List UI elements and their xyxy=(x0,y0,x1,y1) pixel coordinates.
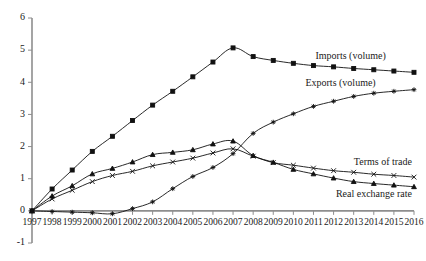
data-point-marker xyxy=(151,103,155,107)
x-axis-tick-label: 2003 xyxy=(143,217,162,227)
line-chart: -10123456 199719981999200020012002200320… xyxy=(0,0,426,261)
data-point-marker xyxy=(251,131,256,136)
series-line xyxy=(32,140,414,210)
chart-container: -10123456 199719981999200020012002200320… xyxy=(0,0,426,261)
x-axis-tick-label: 2004 xyxy=(163,217,182,227)
series-label: Exports (volume) xyxy=(305,77,375,89)
data-point-marker xyxy=(291,111,296,116)
data-point-marker xyxy=(412,70,416,74)
x-axis-tick-label: 2002 xyxy=(123,217,142,227)
x-axis-tick-label: 2001 xyxy=(103,217,122,227)
x-axis-tick-label: 2013 xyxy=(344,217,363,227)
y-axis-tick-label: 4 xyxy=(20,76,25,87)
data-point-marker xyxy=(352,66,356,70)
data-point-marker xyxy=(231,46,235,50)
data-point-marker xyxy=(371,181,376,185)
x-axis-tick-label: 1998 xyxy=(43,217,62,227)
data-point-marker xyxy=(371,91,376,96)
x-axis-tick-label: 2014 xyxy=(364,217,383,227)
data-point-marker xyxy=(150,152,155,156)
data-point-marker xyxy=(251,55,255,59)
data-point-marker xyxy=(110,211,115,216)
data-point-marker xyxy=(391,183,396,187)
data-point-marker xyxy=(131,119,135,123)
data-point-marker xyxy=(90,210,95,215)
data-point-marker xyxy=(251,153,256,157)
data-point-marker xyxy=(70,168,74,172)
data-point-marker xyxy=(291,167,296,171)
data-point-marker xyxy=(211,165,216,170)
data-point-marker xyxy=(271,120,276,125)
data-point-marker xyxy=(291,61,295,65)
data-point-marker xyxy=(130,160,135,164)
x-axis: 1997199819992000200120022003200420052006… xyxy=(23,211,424,227)
x-axis-tick-label: 2016 xyxy=(405,217,424,227)
data-point-marker xyxy=(392,69,396,73)
x-axis-tick-label: 1997 xyxy=(23,217,42,227)
x-axis-tick-label: 2015 xyxy=(384,217,403,227)
data-point-marker xyxy=(271,58,275,62)
x-axis-tick-label: 2006 xyxy=(203,217,222,227)
x-axis-tick-label: 2008 xyxy=(244,217,263,227)
data-point-marker xyxy=(190,174,195,179)
data-point-marker xyxy=(130,206,135,211)
data-point-marker xyxy=(170,150,175,154)
series-annotations: Imports (volume)Exports (volume)Terms of… xyxy=(305,50,412,199)
data-point-marker xyxy=(311,64,315,68)
data-point-marker xyxy=(391,89,396,94)
y-axis-tick-label: 5 xyxy=(20,43,25,54)
data-point-marker xyxy=(412,87,417,92)
data-point-marker xyxy=(110,134,114,138)
data-point-marker xyxy=(190,147,195,151)
data-point-marker xyxy=(311,171,316,175)
x-axis-tick-label: 2009 xyxy=(264,217,283,227)
data-point-marker xyxy=(211,60,215,64)
x-axis-tick-label: 2005 xyxy=(183,217,202,227)
data-point-marker xyxy=(110,166,115,170)
data-point-marker xyxy=(231,139,236,143)
data-point-marker xyxy=(331,99,336,104)
y-axis-tick-label: 6 xyxy=(20,11,25,22)
data-point-marker xyxy=(231,151,236,156)
data-point-marker xyxy=(171,89,175,93)
data-point-marker xyxy=(50,187,54,191)
data-point-marker xyxy=(191,75,195,79)
data-point-marker xyxy=(351,94,356,99)
data-point-marker xyxy=(150,199,155,204)
data-point-marker xyxy=(331,176,336,180)
data-point-marker xyxy=(412,184,417,188)
x-axis-tick-label: 2000 xyxy=(83,217,102,227)
x-axis-tick-label: 2010 xyxy=(284,217,303,227)
y-axis-tick-label: 2 xyxy=(20,140,25,151)
y-axis-tick-label: 3 xyxy=(20,108,25,119)
x-axis-tick-label: 2012 xyxy=(324,217,343,227)
x-axis-tick-label: 2007 xyxy=(224,217,243,227)
data-point-marker xyxy=(332,65,336,69)
data-point-marker xyxy=(70,183,75,187)
data-point-marker xyxy=(90,149,94,153)
data-point-marker xyxy=(90,179,95,184)
data-point-marker xyxy=(50,209,55,214)
data-point-marker xyxy=(372,68,376,72)
data-point-marker xyxy=(70,210,75,215)
y-axis-tick-label: 1 xyxy=(20,172,25,183)
series-label: Imports (volume) xyxy=(315,50,385,62)
data-point-marker xyxy=(351,179,356,183)
data-point-marker xyxy=(50,194,55,198)
series-line xyxy=(32,48,414,211)
y-axis-tick-label: 0 xyxy=(20,204,25,215)
x-axis-tick-label: 2011 xyxy=(304,217,323,227)
series-label: Real exchange rate xyxy=(336,188,413,199)
data-point-marker xyxy=(211,142,216,146)
series-label: Terms of trade xyxy=(354,156,413,167)
y-axis-tick-label: -1 xyxy=(17,236,25,247)
data-point-marker xyxy=(70,188,75,193)
data-point-marker xyxy=(311,104,316,109)
data-point-marker xyxy=(170,186,175,191)
data-point-marker xyxy=(90,171,95,175)
x-axis-tick-label: 1999 xyxy=(63,217,82,227)
